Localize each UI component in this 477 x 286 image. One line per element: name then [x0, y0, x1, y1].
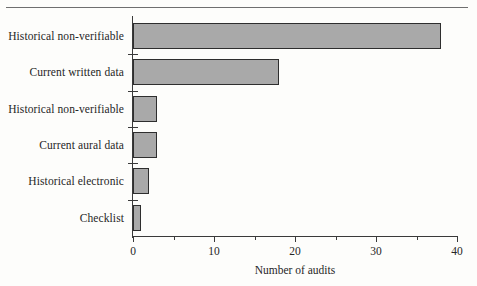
x-axis-tick-label: 20	[289, 245, 301, 257]
x-axis-major-tick	[457, 236, 458, 242]
x-axis-tick-label: 30	[370, 245, 382, 257]
bar-row: Current written data	[133, 54, 457, 90]
x-axis-minor-tick	[255, 236, 256, 240]
category-label: Historical electronic	[28, 175, 124, 187]
x-axis-minor-tick	[174, 236, 175, 240]
x-axis-minor-tick	[336, 236, 337, 240]
x-axis-tick-label: 10	[208, 245, 220, 257]
bar-row: Checklist	[133, 200, 457, 236]
x-axis-tick-label: 0	[130, 245, 136, 257]
bar	[133, 205, 141, 231]
category-label: Current written data	[29, 66, 124, 78]
bar-row: Historical non-verifiable	[133, 18, 457, 54]
x-axis-title: Number of audits	[133, 264, 457, 276]
x-axis-major-tick	[295, 236, 296, 242]
bar-chart-figure: Historical non-verifiableCurrent written…	[0, 0, 477, 286]
bar-row: Current aural data	[133, 127, 457, 163]
x-axis-major-tick	[376, 236, 377, 242]
bar-row: Historical non-verifiable	[133, 91, 457, 127]
bar	[133, 96, 157, 122]
x-axis-major-tick	[133, 236, 134, 242]
x-axis-tick-label: 40	[451, 245, 463, 257]
category-label: Historical non-verifiable	[8, 30, 124, 42]
category-label: Checklist	[80, 212, 124, 224]
top-horizontal-rule	[6, 7, 468, 8]
bar	[133, 59, 279, 85]
x-axis-major-tick	[214, 236, 215, 242]
category-label: Current aural data	[39, 139, 124, 151]
bar	[133, 168, 149, 194]
plot-area: Historical non-verifiableCurrent written…	[133, 18, 457, 236]
bar-row: Historical electronic	[133, 163, 457, 199]
x-axis-minor-tick	[417, 236, 418, 240]
bar	[133, 23, 441, 49]
category-label: Historical non-verifiable	[8, 103, 124, 115]
bar	[133, 132, 157, 158]
